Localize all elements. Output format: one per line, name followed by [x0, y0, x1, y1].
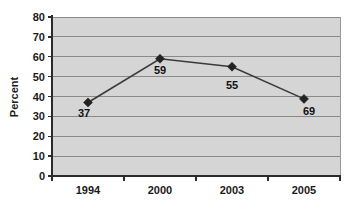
y-tick-label-30: 30: [33, 110, 45, 122]
y-tick-label-60: 60: [33, 51, 45, 63]
data-label-2005: 69: [303, 105, 315, 117]
data-label-2003: 55: [226, 79, 238, 91]
y-axis-tick-labels: 80 70 60 50 40 30 20 10 0: [33, 11, 45, 182]
y-tick-label-20: 20: [33, 130, 45, 142]
line-chart: 80 70 60 50 40 30 20 10 0 Percent 1994 2…: [0, 0, 355, 212]
y-axis-title: Percent: [8, 76, 20, 117]
x-tick-label-2003: 2003: [220, 184, 244, 196]
y-tick-label-50: 50: [33, 71, 45, 83]
y-tick-label-10: 10: [33, 150, 45, 162]
x-tick-label-1994: 1994: [76, 184, 101, 196]
y-tick-label-40: 40: [33, 91, 45, 103]
data-label-2000: 59: [154, 64, 166, 76]
data-label-1994: 37: [78, 107, 90, 119]
x-tick-label-2005: 2005: [292, 184, 316, 196]
y-tick-label-80: 80: [33, 11, 45, 23]
y-tick-label-70: 70: [33, 31, 45, 43]
x-axis-tick-labels: 1994 2000 2003 2005: [76, 184, 316, 196]
chart-canvas: 80 70 60 50 40 30 20 10 0 Percent 1994 2…: [0, 0, 355, 212]
x-tick-label-2000: 2000: [148, 184, 172, 196]
y-tick-label-0: 0: [39, 170, 45, 182]
